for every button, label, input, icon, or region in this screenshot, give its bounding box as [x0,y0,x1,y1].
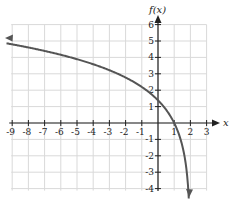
x-tick-label: -1 [136,127,145,137]
x-tick-label: -9 [6,127,15,137]
y-axis-label: f(x) [148,4,166,15]
y-tick-label: 5 [148,36,154,46]
y-tick-label: -4 [145,184,154,194]
down-arrow-icon [186,189,193,197]
x-tick-label: 3 [204,127,210,137]
x-tick-label: 2 [188,127,194,137]
x-tick-label: -3 [104,127,113,137]
y-tick-label: 3 [148,69,154,79]
x-tick-label: -6 [55,127,64,137]
left-arrow-icon [5,35,13,42]
y-axis-arrow-icon [155,15,162,23]
function-curve [5,35,193,199]
x-tick-label: -8 [23,127,32,137]
x-tick-label: -7 [39,127,48,137]
y-tick-label: -3 [145,167,154,177]
x-axis-arrow-icon [212,120,220,127]
function-line [7,43,189,198]
y-tick-label: -1 [145,134,154,144]
y-tick-label: 4 [148,52,154,62]
x-axis-label: x [223,117,229,128]
y-tick-label: 1 [148,102,154,112]
y-tick-label: -2 [145,151,154,161]
x-tick-label: -5 [71,127,80,137]
y-tick-label: 6 [148,20,154,30]
x-tick-label: -2 [120,127,129,137]
x-tick-label: -4 [87,127,96,137]
function-graph: -9-8-7-6-5-4-3-2-1123-4-3-2-1123456 x f(… [0,0,232,199]
